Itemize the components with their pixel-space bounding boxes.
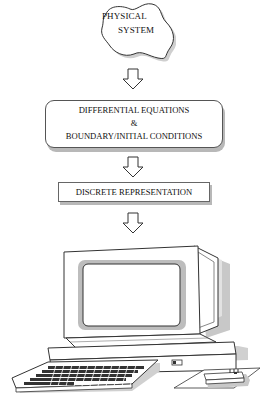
computer-illustration — [8, 238, 263, 394]
differential-equations-line-1: DIFFERENTIAL EQUATIONS — [46, 104, 222, 117]
physical-system-label: PHYSICAL SYSTEM — [100, 9, 176, 37]
discrete-representation-box: DISCRETE REPRESENTATION — [58, 182, 210, 202]
physical-system-line-1: PHYSICAL — [100, 9, 176, 23]
down-arrow-icon — [122, 68, 144, 90]
differential-equations-line-2: & — [46, 117, 222, 130]
down-arrow-icon — [122, 156, 144, 178]
differential-equations-box: DIFFERENTIAL EQUATIONS & BOUNDARY/INITIA… — [45, 100, 223, 148]
physical-system-line-2: SYSTEM — [100, 23, 176, 37]
down-arrow-icon — [122, 212, 144, 234]
differential-equations-line-3: BOUNDARY/INITIAL CONDITIONS — [46, 130, 222, 143]
discrete-representation-label: DISCRETE REPRESENTATION — [76, 187, 193, 197]
